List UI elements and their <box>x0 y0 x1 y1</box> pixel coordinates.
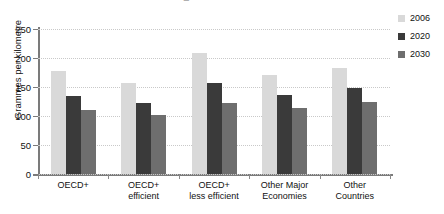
plot-area: 250200150100500 <box>38 29 390 174</box>
bar-2020 <box>207 83 222 174</box>
x-axis-labels: OECD+OECD+efficientOECD+less efficientOt… <box>38 180 390 214</box>
chart-title-cropped: ■ <box>0 0 444 9</box>
bar-2006 <box>332 68 347 174</box>
bar-group <box>108 29 178 174</box>
bar-2030 <box>362 102 377 174</box>
x-axis-label-line: Other <box>320 180 390 191</box>
bar-2020 <box>136 103 151 174</box>
y-tick-label-200: 200 <box>15 53 31 64</box>
bar-groups <box>38 29 390 174</box>
x-tick-mark <box>108 174 109 179</box>
y-tick-label-0: 0 <box>26 169 31 180</box>
legend-label: 2020 <box>410 32 430 41</box>
legend-item-2006[interactable]: 2006 <box>398 14 430 23</box>
bar-2006 <box>192 53 207 174</box>
x-axis-label: Other MajorEconomies <box>249 180 319 214</box>
bar-2020 <box>347 88 362 174</box>
x-axis-label-line: Economies <box>249 191 319 202</box>
x-axis-label: OECD+less efficient <box>179 180 249 214</box>
x-tick-mark <box>179 174 180 179</box>
y-tick-label-100: 100 <box>15 111 31 122</box>
bar-group <box>179 29 249 174</box>
y-tick-label-50: 50 <box>20 140 31 151</box>
gridline-0 <box>38 174 390 176</box>
x-tick-mark <box>320 174 321 179</box>
legend-item-2030[interactable]: 2030 <box>398 50 430 59</box>
legend-swatch-icon <box>398 51 405 58</box>
x-tick-mark <box>390 174 391 179</box>
y-axis-title: Grammes per kilometre <box>12 0 23 145</box>
x-axis-label-line: less efficient <box>179 191 249 202</box>
bar-2006 <box>121 83 136 174</box>
bar-2030 <box>81 110 96 174</box>
bar-2006 <box>262 75 277 174</box>
legend-swatch-icon <box>398 33 405 40</box>
x-axis-label-line: OECD+ <box>179 180 249 191</box>
legend-item-2020[interactable]: 2020 <box>398 32 430 41</box>
bar-2030 <box>222 103 237 174</box>
legend-swatch-icon <box>398 15 405 22</box>
chart-title-text: ■ <box>183 0 190 3</box>
bar-2020 <box>66 96 81 174</box>
x-axis-label-line: Other Major <box>249 180 319 191</box>
bar-2030 <box>151 115 166 174</box>
y-tick-label-150: 150 <box>15 82 31 93</box>
x-axis-label-line: Countries <box>320 191 390 202</box>
chart-legend: 200620202030 <box>398 14 430 59</box>
bar-2030 <box>292 108 307 174</box>
bar-group <box>38 29 108 174</box>
bar-2020 <box>277 95 292 174</box>
bar-chart: ■ Grammes per kilometre 250200150100500 … <box>0 0 444 214</box>
x-axis-label-line: OECD+ <box>38 180 108 191</box>
x-tick-mark <box>38 174 39 179</box>
x-axis-label: OtherCountries <box>320 180 390 214</box>
legend-label: 2030 <box>410 50 430 59</box>
bar-2006 <box>51 71 66 174</box>
x-axis-label: OECD+ <box>38 180 108 214</box>
x-axis-label-line: efficient <box>108 191 178 202</box>
bar-group <box>320 29 390 174</box>
legend-label: 2006 <box>410 14 430 23</box>
x-tick-mark <box>249 174 250 179</box>
x-axis-label-line: OECD+ <box>108 180 178 191</box>
bar-group <box>249 29 319 174</box>
x-axis-label: OECD+efficient <box>108 180 178 214</box>
y-tick-label-250: 250 <box>15 24 31 35</box>
